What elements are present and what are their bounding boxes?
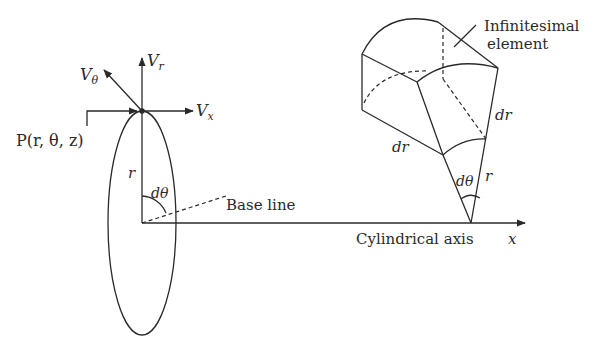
element-label-line1: Infinitesimal bbox=[484, 17, 580, 35]
vtheta-label: Vθ bbox=[80, 65, 99, 87]
point-label: P(r, θ, z) bbox=[16, 131, 84, 150]
dr-label-left: dr bbox=[392, 138, 410, 156]
infinitesimal-element bbox=[362, 19, 498, 223]
dr-label-right: dr bbox=[495, 106, 513, 124]
vtheta-arrow bbox=[104, 70, 142, 111]
element-label-line2: element bbox=[487, 35, 548, 53]
cylindrical-element-diagram: Cylindrical axis x r Base line dθ Vr Vx … bbox=[0, 0, 611, 351]
base-line-label: Base line bbox=[226, 196, 296, 214]
axis-label: Cylindrical axis bbox=[356, 230, 474, 248]
radius-label: r bbox=[128, 164, 136, 182]
angle-label-right: dθ bbox=[456, 173, 474, 189]
radius-label-right: r bbox=[485, 167, 493, 185]
vx-label: Vx bbox=[196, 101, 215, 123]
vr-label: Vr bbox=[147, 51, 165, 73]
axis-variable-label: x bbox=[508, 230, 517, 248]
angle-label-left: dθ bbox=[151, 185, 169, 201]
